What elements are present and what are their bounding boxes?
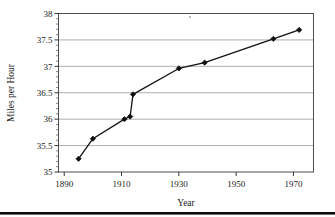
x-axis-title: Year (177, 198, 195, 208)
y-tick-label: 36.5 (37, 88, 53, 98)
y-tick-label: 36 (44, 114, 54, 124)
line-chart: 3535.53636.53737.538 1890191019301950197… (0, 0, 335, 217)
y-axis-title: Miles per Hour (6, 63, 16, 122)
scan-speck-artifact (189, 16, 191, 18)
y-tick-label: 37 (44, 62, 54, 72)
x-tick-label: 1910 (113, 179, 132, 189)
y-tick-label: 38 (44, 9, 54, 19)
x-tick-label: 1950 (227, 179, 246, 189)
y-tick-label: 35 (44, 167, 54, 177)
chart-figure: 3535.53636.53737.538 1890191019301950197… (0, 0, 335, 217)
footer-rule (0, 212, 335, 215)
y-tick-label: 35.5 (37, 141, 53, 151)
x-tick-label: 1970 (284, 179, 303, 189)
x-tick-label: 1930 (170, 179, 189, 189)
x-tick-label: 1890 (55, 179, 74, 189)
y-tick-label: 37.5 (37, 35, 53, 45)
